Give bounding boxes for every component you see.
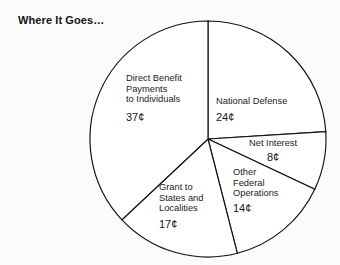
slice-label-line: Direct Benefit xyxy=(126,73,182,83)
slice-label-line: Operations xyxy=(233,188,278,198)
slice-value: 14¢ xyxy=(233,202,278,215)
slice-value: 17¢ xyxy=(159,218,203,231)
slice-label-line: Federal xyxy=(233,178,265,188)
slice-label-direct-benefit-payments: Direct Benefit Payments to Individuals 3… xyxy=(126,73,182,124)
slice-label-line: National Defense xyxy=(216,96,287,106)
slice-label-line: States and xyxy=(159,193,203,203)
slice-label-other-federal-operations: Other Federal Operations 14¢ xyxy=(233,167,278,215)
slice-label-line: to Individuals xyxy=(126,94,180,104)
slice-value: 37¢ xyxy=(126,111,182,124)
slice-value: 8¢ xyxy=(249,151,297,164)
slice-label-line: Net Interest xyxy=(249,138,297,148)
slice-label-line: Localities xyxy=(159,203,198,213)
slice-label-line: Grant to xyxy=(159,182,193,192)
slice-label-line: Other xyxy=(233,167,256,177)
slice-label-grant-to-states-and-localities: Grant to States and Localities 17¢ xyxy=(159,182,203,231)
slice-label-net-interest: Net Interest 8¢ xyxy=(249,138,297,164)
pie-chart-figure: Where It Goes… National Defense 24¢ Net … xyxy=(0,0,340,265)
slice-value: 24¢ xyxy=(216,111,287,124)
slice-label-national-defense: National Defense 24¢ xyxy=(216,96,287,124)
slice-label-line: Payments xyxy=(126,84,167,94)
